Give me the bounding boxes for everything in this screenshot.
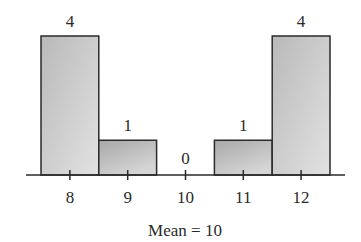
tick-label-11: 11: [235, 188, 251, 207]
tick-label-8: 8: [66, 188, 75, 207]
value-label-11: 1: [239, 116, 248, 135]
tick-label-9: 9: [123, 188, 132, 207]
value-label-12: 4: [297, 12, 306, 31]
value-label-9: 1: [123, 116, 132, 135]
value-label-10: 0: [181, 149, 190, 168]
tick-label-12: 12: [293, 188, 310, 207]
bar-8: [41, 36, 99, 175]
bar-12: [272, 36, 330, 175]
value-label-8: 4: [66, 12, 75, 31]
tick-label-10: 10: [177, 188, 194, 207]
bar-11: [214, 140, 272, 175]
histogram-chart: 89101112 41014 Mean = 10: [0, 0, 361, 242]
x-axis-caption: Mean = 10: [148, 221, 222, 240]
bar-9: [99, 140, 157, 175]
x-axis-tick-labels: 89101112: [66, 188, 310, 207]
